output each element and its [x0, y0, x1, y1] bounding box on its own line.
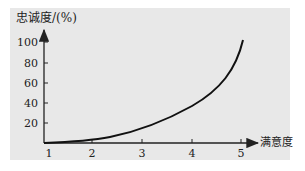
y-tick-label: 100 — [17, 36, 38, 49]
y-axis-label: 忠诚度/(%) — [16, 10, 77, 25]
x-tick-label: 3 — [139, 147, 146, 160]
y-tick-label: 40 — [24, 97, 38, 110]
y-tick-label: 80 — [24, 57, 38, 70]
y-tick-label: 60 — [24, 77, 38, 90]
chart: 100 80 60 40 20 1 2 3 4 5 忠诚度/(%) 满意度 — [0, 0, 305, 171]
x-tick-label: 2 — [89, 147, 96, 160]
x-tick-label: 4 — [189, 147, 196, 160]
x-axis-label: 满意度 — [260, 135, 293, 149]
y-tick-label: 20 — [24, 117, 38, 130]
x-tick-label: 5 — [238, 147, 245, 160]
loyalty-curve — [44, 40, 243, 143]
x-tick-label: 1 — [46, 147, 53, 160]
